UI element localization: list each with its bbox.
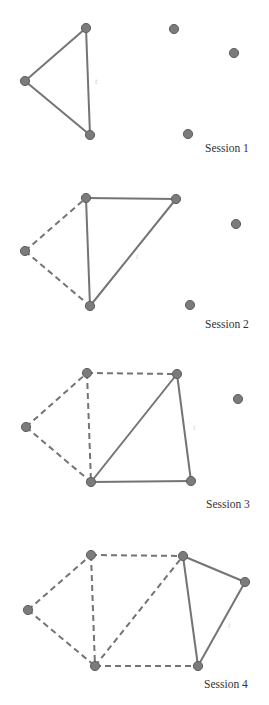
graph-node [20, 76, 29, 85]
graph-node [233, 394, 242, 403]
dashed-edge [87, 373, 91, 482]
dashed-edge [95, 556, 183, 666]
solid-edge [91, 374, 177, 482]
session-panel-2: tSession 2 [20, 193, 249, 330]
session-label: Session 3 [206, 498, 250, 510]
dashed-edge [91, 555, 95, 666]
graph-node [231, 219, 240, 228]
session-label: Session 4 [204, 678, 248, 690]
graph-node [86, 550, 95, 559]
graph-node [23, 605, 32, 614]
faint-edge-mark: t [95, 76, 98, 86]
graph-node [169, 24, 178, 33]
graph-node [81, 193, 90, 202]
graph-node [85, 301, 94, 310]
session-panel-1: tSession 1 [20, 23, 249, 154]
dashed-edge [25, 198, 86, 251]
dashed-edge [26, 427, 91, 482]
graph-node [171, 194, 180, 203]
session-label: Session 2 [205, 318, 249, 330]
dashed-edge [25, 251, 90, 306]
graph-node [193, 661, 202, 670]
faint-edge-mark: t [193, 422, 196, 432]
graph-node [229, 48, 238, 57]
graph-node [185, 300, 194, 309]
dashed-edge [28, 555, 91, 610]
dashed-edge [26, 373, 87, 427]
session-graph-figure: tSession 1tSession 2tSession 3tSession 4 [0, 0, 269, 705]
faint-edge-mark: t [136, 251, 139, 261]
solid-edge [86, 198, 176, 199]
session-panel-4: tSession 4 [23, 550, 249, 690]
dashed-edge [87, 373, 177, 374]
graph-node [21, 422, 30, 431]
solid-edge [86, 28, 90, 135]
solid-edge [183, 556, 245, 582]
graph-node [86, 477, 95, 486]
session-label: Session 1 [205, 142, 249, 154]
solid-edge [91, 481, 191, 482]
graph-node [81, 23, 90, 32]
faint-edge-mark: t [228, 620, 231, 630]
solid-edge [183, 556, 198, 666]
solid-edge [25, 81, 90, 135]
graph-node [240, 577, 249, 586]
solid-edge [198, 582, 245, 666]
solid-edge [86, 198, 90, 306]
graph-node [82, 368, 91, 377]
graph-node [85, 130, 94, 139]
solid-edge [25, 28, 86, 81]
dashed-edge [91, 555, 183, 556]
graph-node [90, 661, 99, 670]
graph-node [178, 551, 187, 560]
solid-edge [90, 199, 176, 306]
dashed-edge [28, 610, 95, 666]
solid-edge [177, 374, 191, 481]
graph-node [183, 129, 192, 138]
graph-node [172, 369, 181, 378]
graph-node [186, 476, 195, 485]
graph-node [20, 246, 29, 255]
session-panel-3: tSession 3 [21, 368, 250, 510]
